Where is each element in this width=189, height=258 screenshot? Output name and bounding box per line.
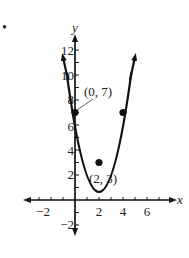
x-tick-labels: −2 2 4 6 [36,204,151,219]
y-tick-label: −2 [60,217,74,232]
x-tick-label: 2 [96,204,103,219]
y-axis-label: y [70,20,78,35]
y-tick-label: 12 [61,43,74,58]
point-vertex-2-3 [95,159,102,166]
annotation-0-7: (0, 7) [84,84,112,99]
y-tick-label: 4 [68,143,75,158]
y-tick-labels: −2 2 4 6 8 10 12 [60,43,74,232]
annotation-leader [77,99,93,110]
x-tick-label: −2 [36,204,50,219]
x-tick-label: 4 [120,204,127,219]
x-tick-label: 6 [144,204,151,219]
curve-arrow-right [130,57,135,80]
list-bullet: • [2,20,7,35]
x-axis-label: x [176,192,183,207]
y-tick-label: 2 [68,167,75,182]
point-4-7 [119,109,126,116]
parabola-graph: • −2 2 [0,0,189,258]
annotation-vertex: (2, 3) [89,171,117,186]
